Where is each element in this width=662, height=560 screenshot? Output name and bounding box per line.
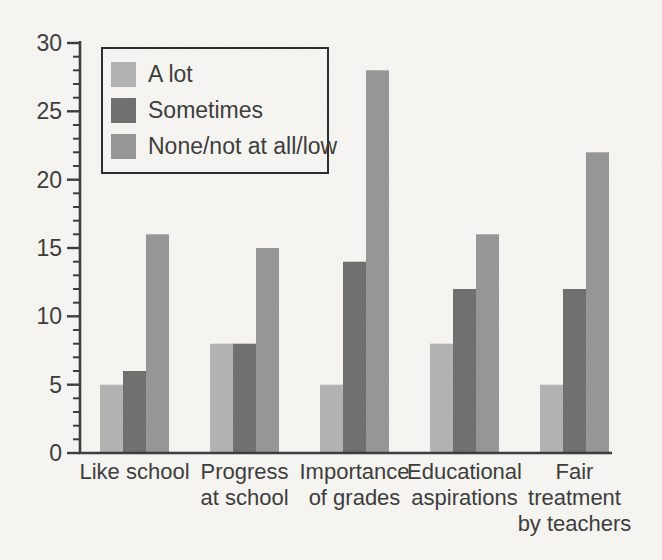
bar-chart-svg: 051015202530Like schoolProgressat school… — [0, 0, 662, 560]
scanned-bar-chart-figure: 051015202530Like schoolProgressat school… — [0, 0, 662, 560]
paper-grain-overlay — [0, 0, 662, 560]
